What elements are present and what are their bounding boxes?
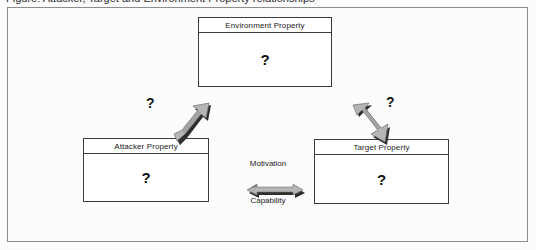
cropped-caption-strip: Figure: Attacker, Target and Environment… (0, 0, 536, 5)
edge-label-attacker-environment: ? (146, 96, 155, 110)
node-environment-property-body: ? (199, 33, 331, 86)
node-attacker-property-body: ? (84, 154, 208, 201)
node-environment-property-title: Environment Property (199, 18, 331, 33)
edge-label-environment-target: ? (386, 95, 395, 109)
node-target-property-body: ? (315, 155, 448, 203)
edge-label-capability: Capability (233, 196, 303, 205)
node-environment-property[interactable]: Environment Property ? (198, 17, 332, 87)
caption-text: Figure: Attacker, Target and Environment… (6, 0, 315, 4)
edge-label-motivation: Motivation (233, 159, 303, 168)
block-arrow-icon-attacker-environment (171, 100, 215, 148)
diagram-frame: Environment Property ? Attacker Property… (7, 7, 528, 242)
node-target-property[interactable]: Target Property ? (314, 139, 449, 204)
